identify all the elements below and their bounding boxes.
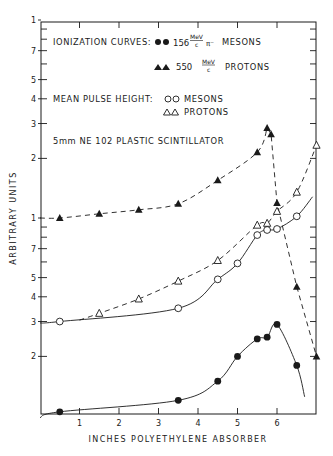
open-triangle-icon xyxy=(172,109,179,115)
filled-circle-marker xyxy=(264,334,271,341)
legend-pulse-mesons: MESONS xyxy=(184,94,223,104)
plot-frame xyxy=(41,22,316,414)
scintillator-label: 5mm NE 102 PLASTIC SCINTILLATOR xyxy=(53,136,224,146)
legend-unit-num: MeV xyxy=(190,33,204,40)
filled-circle-marker xyxy=(274,321,281,328)
filled-circle-marker xyxy=(175,397,182,404)
filled-circle-marker xyxy=(293,362,300,369)
open-circle-marker xyxy=(56,318,63,325)
y-axis-label: ARBITRARY UNITS xyxy=(9,171,18,265)
filled-circle-marker xyxy=(254,336,261,343)
open-triangle-marker xyxy=(214,257,221,264)
series-line xyxy=(80,145,317,320)
y-tick-label: 1 xyxy=(31,214,36,223)
legend-meson-energy: 156 xyxy=(173,38,189,48)
legend-protons: PROTONS xyxy=(225,62,270,72)
y-tick-label: 1 xyxy=(31,16,36,25)
y-tick-label: 7 xyxy=(31,245,36,254)
filled-circle-icon xyxy=(155,39,161,45)
open-circle-icon xyxy=(165,96,171,102)
open-triangle-icon xyxy=(164,109,171,115)
legend-pulse-label: MEAN PULSE HEIGHT: xyxy=(53,94,153,104)
open-circle-marker xyxy=(254,232,261,239)
open-triangle-marker xyxy=(175,277,182,284)
x-tick-label: 3 xyxy=(156,419,161,428)
y-tick-label: 3 xyxy=(31,120,36,129)
y-tick-label: 5 xyxy=(31,76,36,85)
x-axis-label: INCHES POLYETHYLENE ABSORBER xyxy=(88,435,267,444)
legend-ionization-label: IONIZATION CURVES: xyxy=(53,37,151,47)
open-triangle-marker xyxy=(313,141,320,148)
filled-circle-icon xyxy=(163,39,169,45)
open-triangle-marker xyxy=(135,295,142,302)
filled-triangle-marker xyxy=(95,210,103,217)
series-curves xyxy=(40,128,317,418)
open-circle-marker xyxy=(293,213,300,220)
filled-triangle-marker xyxy=(263,124,271,131)
filled-circle-marker xyxy=(214,378,221,385)
legend-unit-den: c xyxy=(195,41,198,48)
filled-circle-marker xyxy=(56,408,63,415)
open-triangle-marker xyxy=(273,207,280,214)
open-circle-marker xyxy=(214,276,221,283)
y-tick-label: 4 xyxy=(31,95,36,104)
open-triangle-marker xyxy=(96,309,103,316)
legend: IONIZATION CURVES: 156 MeV c π⁻ MESONS 5… xyxy=(53,33,270,146)
legend-unit-den-2: c xyxy=(207,66,210,73)
open-circle-icon xyxy=(173,96,179,102)
filled-triangle-marker xyxy=(273,199,281,206)
open-circle-marker xyxy=(175,305,182,312)
y-tick-label: 5 xyxy=(31,274,36,283)
y-tick-label: 7 xyxy=(31,47,36,56)
y-tick-label: 2 xyxy=(31,352,36,361)
filled-triangle-marker xyxy=(214,176,222,183)
y-tick-label: 3 xyxy=(31,318,36,327)
filled-triangle-marker xyxy=(267,130,275,137)
y-tick-label: 4 xyxy=(31,293,36,302)
filled-triangle-icon xyxy=(154,64,162,70)
open-circle-marker xyxy=(274,226,281,233)
open-circle-marker xyxy=(234,260,241,267)
legend-pulse-protons: PROTONS xyxy=(184,107,229,117)
chart: 175432175432 123456 IONIZATION CURVES: 1… xyxy=(0,0,333,456)
legend-pion: π⁻ xyxy=(206,40,214,48)
filled-triangle-marker xyxy=(174,200,182,207)
filled-triangle-icon xyxy=(162,64,170,70)
x-tick-label: 5 xyxy=(235,419,240,428)
filled-triangle-marker xyxy=(293,283,301,290)
series-line xyxy=(40,197,313,323)
legend-unit-num-2: MeV xyxy=(202,58,216,65)
legend-mesons: MESONS xyxy=(222,37,261,47)
x-tick-label: 4 xyxy=(195,419,200,428)
x-tick-label: 1 xyxy=(77,419,82,428)
open-triangle-marker xyxy=(293,188,300,195)
filled-triangle-marker xyxy=(313,352,321,359)
open-triangle-marker xyxy=(254,221,261,228)
x-tick-label: 2 xyxy=(116,419,121,428)
legend-proton-energy: 550 xyxy=(176,62,192,72)
filled-circle-marker xyxy=(234,353,241,360)
x-tick-label: 6 xyxy=(274,419,279,428)
open-circle-marker xyxy=(264,227,271,234)
x-axis-ticks: 123456 xyxy=(77,22,280,428)
series-markers xyxy=(56,124,320,415)
y-tick-label: 2 xyxy=(31,154,36,163)
